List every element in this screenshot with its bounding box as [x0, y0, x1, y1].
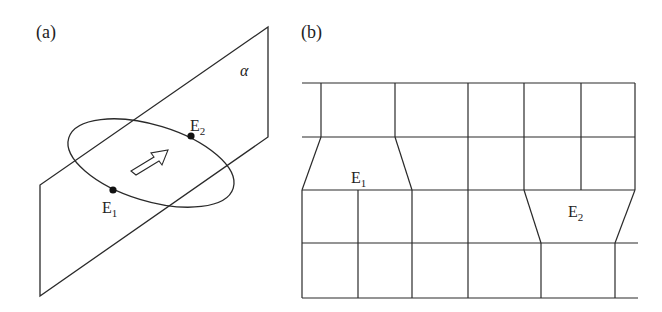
panel-a-label: (a) — [36, 22, 56, 43]
plane-alpha — [40, 27, 268, 296]
point-e1-label: E1 — [102, 199, 117, 219]
panel-b-label: (b) — [301, 22, 322, 43]
figure: (a) α E2 E1 — [0, 0, 662, 312]
element-e1-label: E1 — [351, 169, 366, 189]
mesh-grid — [302, 83, 638, 298]
plane-alpha-label: α — [240, 62, 249, 79]
element-e2-left-edge — [524, 190, 541, 243]
element-e2-right-edge — [615, 190, 635, 243]
element-e1-left-edge — [302, 137, 321, 190]
element-e2-label: E2 — [568, 203, 583, 223]
orbit-ellipse — [58, 102, 245, 225]
point-e1 — [109, 186, 116, 193]
direction-arrow-icon — [131, 150, 168, 175]
element-e1-right-edge — [395, 137, 412, 190]
